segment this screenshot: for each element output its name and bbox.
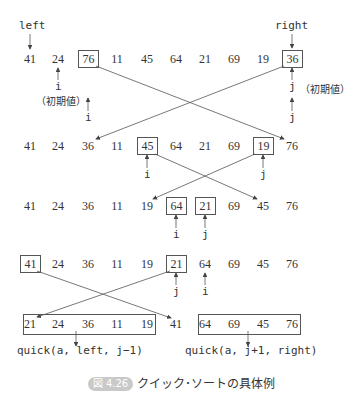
cell: 19 [135,316,159,332]
j-pointer-label: j [202,228,209,241]
cell: 24 [46,316,70,332]
cell: 64 [193,316,217,332]
cell: 21 [193,138,217,154]
right-label: right [275,19,308,32]
cell: 41 [18,51,42,67]
cell-highlighted: 21 [195,197,216,215]
cell: 64 [164,138,188,154]
cell: 36 [76,316,100,332]
j-pointer-label: j [289,80,296,93]
cell: 19 [251,51,275,67]
cell-highlighted: 21 [166,255,187,273]
cell: 19 [135,256,159,272]
cell: 41 [18,198,42,214]
cell: 64 [193,256,217,272]
cell: 19 [135,198,159,214]
figure-number-badge: 図 4.26 [88,377,133,391]
i-pointer-label: i [144,168,151,181]
cell: 24 [46,51,70,67]
i-pointer-label: i [85,111,92,124]
cell: 69 [222,256,246,272]
cell: 11 [105,51,129,67]
caption-text: クイック･ソートの具体例 [137,377,275,391]
initial-value-label: （初期値） [300,81,350,96]
cell-highlighted: 41 [20,255,41,273]
cell: 69 [222,51,246,67]
cell: 24 [46,138,70,154]
cell: 21 [193,51,217,67]
j-pointer-label: j [260,168,267,181]
right-recursive-call: quick(a, j+1, right) [185,344,317,357]
pivot-cell: 41 [164,316,188,332]
cell: 45 [135,51,159,67]
left-recursive-call: quick(a, left, j−1) [17,344,143,357]
cell: 36 [76,198,100,214]
cell: 21 [18,316,42,332]
cell: 11 [105,316,129,332]
cell: 24 [46,256,70,272]
cell-highlighted: 64 [166,197,187,215]
cell: 11 [105,138,129,154]
left-label: left [19,19,46,32]
cell: 69 [222,138,246,154]
cell: 76 [280,198,304,214]
cell: 76 [280,138,304,154]
cell: 69 [222,198,246,214]
cell: 64 [164,51,188,67]
figure-caption: 図 4.26クイック･ソートの具体例 [0,374,363,391]
i-pointer-label: i [202,285,209,298]
initial-value-label: （初期値） [36,93,86,108]
cell-highlighted: 45 [137,137,158,155]
cell: 45 [251,198,275,214]
cell: 11 [105,198,129,214]
cell: 24 [46,198,70,214]
cell: 41 [18,138,42,154]
cell: 45 [251,256,275,272]
cell-highlighted: 76 [78,50,99,68]
cell: 76 [280,256,304,272]
cell-highlighted: 19 [253,137,274,155]
i-pointer-label: i [173,228,180,241]
cell: 45 [251,316,275,332]
j-pointer-label: j [173,285,180,298]
i-pointer-label: i [55,80,62,93]
cell: 36 [76,256,100,272]
j-pointer-label: j [289,111,296,124]
cell-highlighted: 36 [282,50,303,68]
cell: 36 [76,138,100,154]
cell: 11 [105,256,129,272]
cell: 76 [280,316,304,332]
cell: 69 [222,316,246,332]
